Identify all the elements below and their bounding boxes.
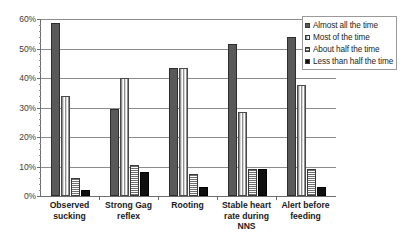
legend-label: Less than half the time: [313, 57, 393, 66]
bar: [169, 68, 178, 196]
bar: [258, 169, 267, 196]
bar: [248, 169, 257, 196]
y-axis-tick-label: 60%: [19, 14, 36, 24]
bar: [120, 78, 129, 196]
bar: [199, 187, 208, 196]
legend: Almost all the timeMost of the timeAbout…: [302, 16, 397, 70]
bar: [140, 172, 149, 196]
legend-item[interactable]: About half the time: [305, 43, 393, 55]
y-axis-tick: [37, 196, 41, 197]
x-axis-label: Alert beforefeeding: [276, 200, 335, 232]
bar: [130, 165, 139, 196]
bar-chart: 0%10%20%30%40%50%60% ObservedsuckingStro…: [0, 0, 415, 242]
bar-groups: [41, 19, 336, 196]
bar-group: [100, 19, 159, 196]
x-axis-label-line: Strong Gag: [100, 200, 157, 211]
bar: [81, 190, 90, 196]
legend-label: Most of the time: [313, 33, 370, 42]
x-axis-label-line: Alert before: [277, 200, 334, 211]
bar-group: [41, 19, 100, 196]
bar: [61, 96, 70, 196]
x-axis-labels: ObservedsuckingStrong GagreflexRootingSt…: [40, 200, 335, 232]
x-axis-label-line: NNS: [218, 221, 275, 232]
x-axis-label: Observedsucking: [40, 200, 99, 232]
legend-label: About half the time: [313, 45, 379, 54]
x-axis-label-line: feeding: [277, 211, 334, 222]
bar: [71, 178, 80, 196]
x-axis-label-line: rate during: [218, 211, 275, 222]
y-axis-tick-label: 40%: [19, 73, 36, 83]
x-axis-label: Stable heartrate duringNNS: [217, 200, 276, 232]
x-axis-label-line: reflex: [100, 211, 157, 222]
bar: [110, 109, 119, 196]
legend-item[interactable]: Almost all the time: [305, 19, 393, 31]
legend-swatch-icon: [305, 59, 310, 64]
bar: [307, 169, 316, 196]
x-axis-label-line: Stable heart: [218, 200, 275, 211]
bar-group: [159, 19, 218, 196]
y-axis-tick-label: 20%: [19, 132, 36, 142]
bar: [238, 112, 247, 196]
bar: [51, 23, 60, 196]
y-axis-tick-label: 10%: [19, 162, 36, 172]
y-axis-tick-label: 50%: [19, 44, 36, 54]
legend-swatch-icon: [305, 23, 310, 28]
legend-item[interactable]: Less than half the time: [305, 55, 393, 67]
bar: [297, 85, 306, 196]
bar: [228, 44, 237, 196]
plot-area: 0%10%20%30%40%50%60%: [40, 19, 336, 197]
bar: [179, 68, 188, 196]
bar: [287, 37, 296, 196]
bar: [317, 187, 326, 196]
x-axis-label-line: sucking: [41, 211, 98, 222]
y-axis-tick-label: 0%: [24, 191, 36, 201]
y-axis-tick-label: 30%: [19, 103, 36, 113]
x-axis-label-line: Rooting: [159, 200, 216, 211]
bar: [189, 174, 198, 196]
bar-group: [218, 19, 277, 196]
x-axis-label: Rooting: [158, 200, 217, 232]
legend-label: Almost all the time: [313, 21, 378, 30]
legend-swatch-icon: [305, 35, 310, 40]
legend-swatch-icon: [305, 47, 310, 52]
x-axis-label-line: Observed: [41, 200, 98, 211]
legend-item[interactable]: Most of the time: [305, 31, 393, 43]
x-axis-label: Strong Gagreflex: [99, 200, 158, 232]
